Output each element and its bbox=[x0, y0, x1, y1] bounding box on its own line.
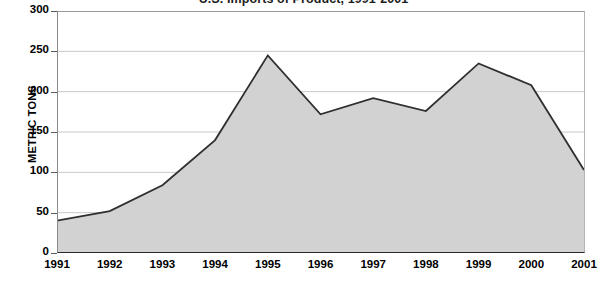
x-axis-tick-label: 1999 bbox=[449, 258, 509, 270]
x-axis-tick-label: 1991 bbox=[27, 258, 87, 270]
x-axis-tick-label: 1994 bbox=[185, 258, 245, 270]
y-axis-tick-label: 300 bbox=[4, 3, 49, 15]
y-axis-tick-mark bbox=[51, 253, 57, 254]
plot-area bbox=[57, 11, 585, 253]
x-axis-tick-label: 1996 bbox=[291, 258, 351, 270]
y-axis-tick-label: 0 bbox=[4, 245, 49, 257]
x-axis-tick-label: 1997 bbox=[343, 258, 403, 270]
y-axis-tick-label: 100 bbox=[4, 164, 49, 176]
y-axis-tick-label: 250 bbox=[4, 43, 49, 55]
plot-frame bbox=[57, 11, 585, 253]
x-axis-tick-label: 1995 bbox=[238, 258, 298, 270]
x-axis-tick-label: 2001 bbox=[554, 258, 607, 270]
area-chart-figure: U.S. Imports of Product, 1991-2001 METRI… bbox=[0, 0, 607, 282]
y-axis-tick-label: 150 bbox=[4, 124, 49, 136]
x-axis-tick-label: 1993 bbox=[132, 258, 192, 270]
y-axis-tick-label: 50 bbox=[4, 205, 49, 217]
x-axis-tick-label: 1998 bbox=[396, 258, 456, 270]
x-axis-tick-label: 2000 bbox=[501, 258, 561, 270]
x-axis-tick-label: 1992 bbox=[80, 258, 140, 270]
y-axis-tick-label: 200 bbox=[4, 84, 49, 96]
x-axis-tick-labels: 1991199219931994199519961997199819992000… bbox=[0, 258, 607, 280]
